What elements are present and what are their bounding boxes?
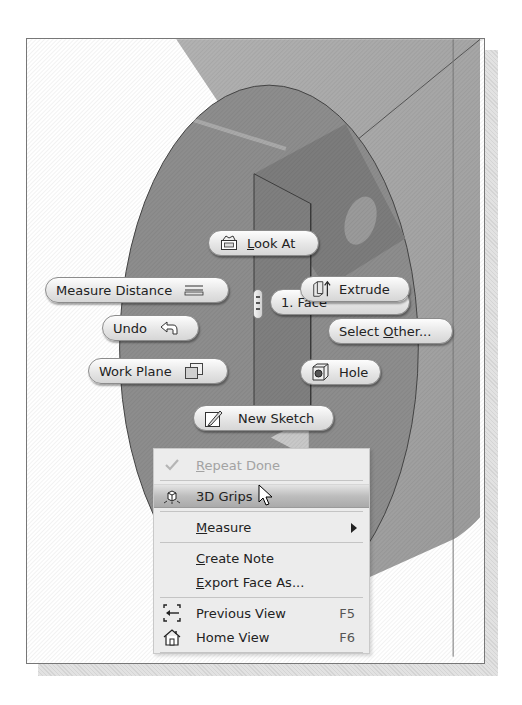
select-other-label: Select Other... (339, 324, 431, 339)
menu-item-label: Previous View (196, 606, 286, 621)
checkmark-icon (162, 456, 182, 474)
measure-distance-icon (184, 281, 204, 299)
select-other-button[interactable]: Select Other... (328, 318, 453, 344)
work-plane-button[interactable]: Work Plane (88, 358, 228, 384)
context-menu: Repeat Done 3D Grips Measure Create Note… (153, 448, 370, 654)
measure-distance-label: Measure Distance (56, 283, 172, 298)
menu-item-label: 3D Grips (196, 489, 252, 504)
menu-item-home-view[interactable]: Home View F6 (154, 625, 369, 649)
extrude-button[interactable]: Extrude (300, 276, 410, 302)
menu-item-repeat-done[interactable]: Repeat Done (154, 453, 369, 477)
shortcut-label: F6 (339, 630, 355, 645)
hole-button[interactable]: Hole (300, 359, 381, 385)
new-sketch-button[interactable]: New Sketch (193, 405, 334, 431)
work-plane-label: Work Plane (99, 364, 172, 379)
3d-grips-icon (162, 488, 182, 506)
menu-item-create-note[interactable]: Create Note (154, 546, 369, 570)
menu-separator (160, 597, 363, 598)
menu-item-export-face-as[interactable]: Export Face As... (154, 570, 369, 594)
extrude-icon (311, 280, 331, 298)
menu-item-label: Home View (196, 630, 269, 645)
menu-item-label: Export Face As... (196, 575, 304, 590)
menu-item-label: Create Note (196, 551, 274, 566)
work-plane-icon (184, 362, 204, 380)
undo-button[interactable]: Undo (102, 315, 199, 341)
menu-separator (160, 652, 363, 653)
menu-item-previous-view[interactable]: Previous View F5 (154, 601, 369, 625)
menu-item-measure[interactable]: Measure (154, 515, 369, 539)
menu-separator (160, 542, 363, 543)
extrude-label: Extrude (339, 282, 390, 297)
home-view-icon (162, 628, 182, 646)
submenu-arrow-icon (351, 523, 357, 533)
previous-view-icon (162, 604, 182, 622)
new-sketch-icon (204, 409, 224, 427)
look-at-button[interactable]: Look At (208, 230, 319, 256)
mouse-cursor-icon (258, 484, 274, 508)
look-at-label: Look At (247, 236, 295, 251)
look-at-icon (219, 234, 239, 252)
menu-item-label: Measure (196, 520, 251, 535)
undo-arrow-icon (159, 319, 179, 337)
hole-label: Hole (339, 365, 368, 380)
undo-label: Undo (113, 321, 147, 336)
shortcut-label: F5 (339, 606, 355, 621)
menu-separator (160, 511, 363, 512)
measure-distance-button[interactable]: Measure Distance (45, 277, 229, 303)
hole-icon (311, 363, 331, 381)
menu-separator (160, 480, 363, 481)
new-sketch-label: New Sketch (238, 411, 314, 426)
menu-item-label: Repeat Done (196, 458, 280, 473)
grip-handle[interactable] (253, 289, 263, 319)
